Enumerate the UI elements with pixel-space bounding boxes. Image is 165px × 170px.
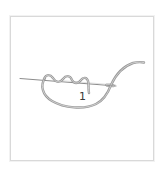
thread (42, 62, 144, 107)
thread-tail-highlight (111, 62, 144, 85)
bullion-stitch-illustration (0, 0, 165, 170)
needle-icon (20, 79, 116, 88)
needle-shaft (20, 79, 116, 87)
step-number-label: 1 (79, 91, 86, 103)
